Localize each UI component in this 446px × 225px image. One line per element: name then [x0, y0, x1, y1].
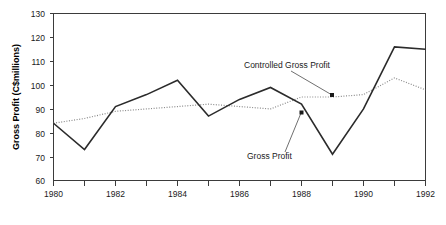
x-tick-label-1988: 1988 [292, 189, 311, 199]
y-tick-label-70: 70 [36, 153, 46, 163]
annotation-gross-profit: Gross Profit [247, 111, 304, 162]
x-axis-tick-labels: 1980 1982 1984 1986 1988 1990 1992 [44, 189, 435, 199]
x-tick-label-1980: 1980 [44, 189, 63, 199]
annotation-leader-line-controlled [291, 71, 332, 95]
y-axis-tick-labels: 130 120 110 100 90 80 70 60 [31, 9, 45, 187]
x-tick-label-1982: 1982 [106, 189, 125, 199]
y-tick-label-130: 130 [31, 9, 45, 19]
y-tick-label-90: 90 [36, 105, 46, 115]
data-series-group [54, 47, 426, 154]
x-tick-label-1986: 1986 [230, 189, 249, 199]
y-tick-label-100: 100 [31, 81, 45, 91]
annotation-controlled-gross-profit: Controlled Gross Profit [244, 60, 334, 97]
x-tick-label-1984: 1984 [168, 189, 187, 199]
y-tick-label-110: 110 [31, 57, 45, 67]
y-axis-title: Gross Profit (C$millions) [11, 44, 21, 150]
y-axis-title-group: Gross Profit (C$millions) [11, 44, 21, 150]
y-tick-label-120: 120 [31, 33, 45, 43]
y-tick-label-80: 80 [36, 129, 46, 139]
chart-svg: Gross Profit (C$millions) 130 120 110 10… [0, 0, 446, 225]
annotation-marker-controlled [330, 93, 334, 97]
y-axis-ticks [50, 14, 54, 158]
annotation-leader-line-gross [285, 113, 301, 152]
series-line-gross-profit [54, 47, 426, 154]
gross-profit-line-chart: Gross Profit (C$millions) 130 120 110 10… [0, 0, 446, 225]
y-tick-label-60: 60 [36, 176, 46, 186]
x-axis-ticks [54, 181, 426, 186]
annotation-label-controlled-gross-profit: Controlled Gross Profit [244, 60, 331, 70]
x-tick-label-1992: 1992 [416, 189, 435, 199]
annotation-label-gross-profit: Gross Profit [247, 151, 293, 161]
x-tick-label-1990: 1990 [354, 189, 373, 199]
annotation-marker-gross [300, 111, 304, 115]
